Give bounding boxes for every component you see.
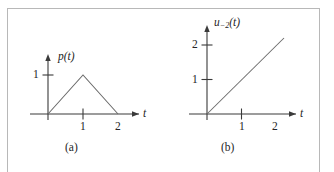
panel-a-curve-triangular-pulse <box>48 75 118 114</box>
panel-a-function-label: p(t) <box>58 51 75 63</box>
panel-b-curve-unit-ramp <box>207 38 284 114</box>
panel-b-y-tick-label-2: 2 <box>192 39 198 51</box>
panel-a-plot <box>8 0 168 172</box>
panel-a-x-axis-arrowhead <box>132 111 139 116</box>
panel-a-caption: (a) <box>65 141 78 153</box>
panel-b-y-axis-arrowhead <box>204 25 209 32</box>
panel-a-x-tick-label-2: 2 <box>115 121 121 133</box>
figure-root: p(t) t 1 1 2 (a) u−2(t) t 2 1 1 <box>0 0 334 172</box>
panel-b: u−2(t) t 2 1 1 2 (b) <box>168 0 328 172</box>
panel-a: p(t) t 1 1 2 (a) <box>8 0 168 172</box>
panel-a-x-tick-label-1: 1 <box>80 121 86 133</box>
panel-b-x-tick-label-1: 1 <box>239 121 245 133</box>
panel-a-y-axis-arrowhead <box>45 54 50 61</box>
panel-a-x-axis-label: t <box>143 108 146 120</box>
panel-b-plot <box>168 0 328 172</box>
panel-b-x-tick-label-2: 2 <box>272 121 278 133</box>
panel-b-x-axis-label: t <box>300 108 303 120</box>
panel-b-caption: (b) <box>221 141 234 153</box>
panel-b-x-axis-arrowhead <box>289 111 296 116</box>
panel-b-y-tick-label-1: 1 <box>192 74 198 86</box>
panel-b-function-label: u−2(t) <box>214 17 240 30</box>
panel-a-y-tick-label-1: 1 <box>33 69 39 81</box>
